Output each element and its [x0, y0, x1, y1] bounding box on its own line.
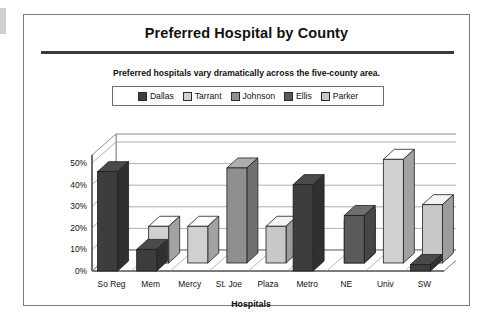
x-axis-category-label: Mercy	[178, 279, 202, 289]
x-axis-title: Hospitals	[46, 299, 456, 309]
y-axis-tick-label: 10%	[70, 244, 87, 254]
bar-dallas-so-reg	[98, 162, 129, 271]
legend-entry: Dallas	[138, 91, 174, 101]
plot-area: 0%10%20%30%40%50%So RegMemMercySt. JoePl…	[46, 121, 456, 296]
bar-parker-plaza	[266, 216, 297, 263]
bar-parker-sw	[422, 195, 453, 263]
legend-label: Parker	[333, 91, 358, 101]
legend-swatch-icon	[321, 92, 330, 101]
legend-label: Ellis	[296, 91, 312, 101]
bar-ellis-ne	[344, 205, 375, 263]
bar-tarrant-univ	[383, 149, 414, 263]
legend-label: Tarrant	[195, 91, 222, 101]
x-axis-category-label: NE	[340, 279, 352, 289]
legend-entry: Parker	[321, 91, 358, 101]
chart-subtitle: Preferred hospitals vary dramatically ac…	[24, 68, 469, 78]
chart-legend: DallasTarrantJohnsonEllisParker	[112, 86, 384, 106]
y-axis-tick-label: 20%	[70, 223, 87, 233]
y-axis-tick-label: 30%	[70, 201, 87, 211]
x-axis-category-label: So Reg	[98, 279, 126, 289]
bar-dallas-metro	[293, 175, 324, 271]
bar-chart-3d: 0%10%20%30%40%50%So RegMemMercySt. JoePl…	[46, 121, 456, 296]
legend-label: Dallas	[150, 91, 174, 101]
legend-entry: Ellis	[284, 91, 312, 101]
legend-label: Johnson	[243, 91, 276, 101]
legend-entry: Tarrant	[183, 91, 222, 101]
chart-title: Preferred Hospital by County	[24, 25, 469, 41]
x-axis-category-label: St. Joe	[216, 279, 242, 289]
page-edge-artifact	[0, 8, 6, 34]
y-axis-tick-label: 40%	[70, 180, 87, 190]
legend-entry: Johnson	[231, 91, 276, 101]
x-axis-category-label: Univ	[377, 279, 395, 289]
legend-swatch-icon	[138, 92, 147, 101]
x-axis-category-label: Plaza	[258, 279, 279, 289]
y-axis-tick-label: 0%	[75, 266, 88, 276]
legend-swatch-icon	[284, 92, 293, 101]
y-axis-tick-label: 50%	[70, 158, 87, 168]
x-axis-category-label: Mem	[141, 279, 160, 289]
legend-swatch-icon	[231, 92, 240, 101]
title-divider	[41, 51, 454, 54]
x-axis-category-label: SW	[418, 279, 432, 289]
x-axis-category-label: Metro	[296, 279, 318, 289]
bar-johnson-st-joe	[227, 158, 258, 263]
legend-swatch-icon	[183, 92, 192, 101]
bar-tarrant-mercy	[188, 216, 219, 263]
chart-frame: Preferred Hospital by County Preferred h…	[23, 14, 470, 306]
